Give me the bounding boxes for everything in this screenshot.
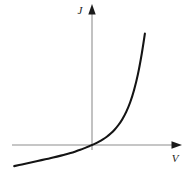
y-axis-label: J: [78, 4, 84, 16]
up-arrow-icon: [88, 4, 95, 15]
right-arrow-icon: [172, 141, 183, 148]
diode-jv-characteristic-figure: J V: [0, 0, 196, 177]
jv-curve: [14, 34, 145, 167]
x-axis-label: V: [172, 152, 180, 164]
chart-canvas: J V: [0, 0, 196, 177]
